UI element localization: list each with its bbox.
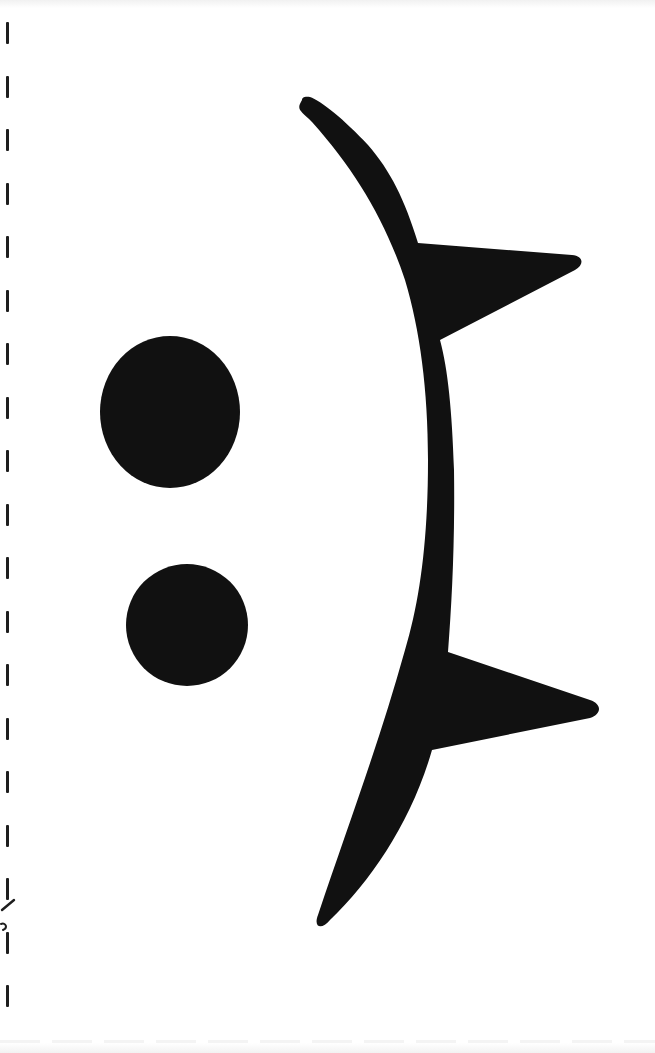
lower-dot [126,564,248,686]
scanned-page [0,0,655,1053]
sad-face-emoticon [0,0,655,1053]
curved-stroke-with-spikes [299,97,599,927]
scan-edge-shadow-bottom [0,1043,655,1053]
upper-dot [100,336,240,488]
